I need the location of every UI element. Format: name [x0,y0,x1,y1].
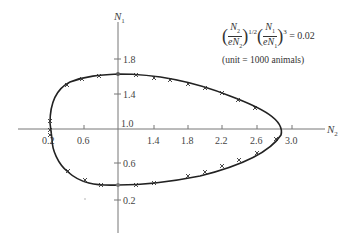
equation-rhs: = 0.02 [289,30,315,41]
n1-tick-1.0: 1.0 [121,118,134,129]
n2-ticks [84,125,292,129]
n1-tick-0.2: 0.2 [123,195,136,206]
unit-note: (unit = 1000 animals) [222,55,304,65]
trajectory-markers [48,73,278,187]
trajectory-curve [50,74,281,185]
n1-tick-1.4: 1.4 [123,89,136,100]
n2-tick-1.4: 1.4 [147,135,160,146]
n2-tick-2.2: 2.2 [215,135,228,146]
n2-axis-label: N2 [326,123,338,138]
n2-tick-3.0: 3.0 [285,135,298,146]
n2-tick-2.6: 2.6 [250,135,263,146]
min-n1-point [116,183,120,187]
n1-axis-label: N1 [113,10,125,25]
equation: (N2eN̄2)1/2(N1eN̄1)3 = 0.02 [222,22,315,51]
n1-tick-1.8: 1.8 [123,54,136,65]
n2-tick-0.6: 0.6 [77,135,90,146]
n2-tick-1.8: 1.8 [181,135,194,146]
max-n1-point [116,72,120,76]
n1-tick-0.6: 0.6 [123,158,136,169]
speck [84,198,86,200]
